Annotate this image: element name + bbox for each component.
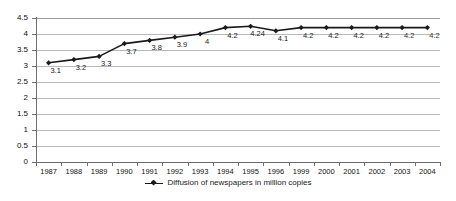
x-tick xyxy=(263,162,264,166)
y-tick xyxy=(32,82,36,83)
x-tick xyxy=(415,162,416,166)
y-tick xyxy=(32,114,36,115)
y-tick-label: 0 xyxy=(0,158,28,166)
x-tick xyxy=(112,162,113,166)
x-tick xyxy=(364,162,365,166)
x-tick-label: 2000 xyxy=(318,167,335,176)
x-tick xyxy=(137,162,138,166)
x-tick xyxy=(87,162,88,166)
data-point-label: 4 xyxy=(205,37,209,46)
data-point-label: 4.2 xyxy=(328,31,338,40)
data-point-label: 3.2 xyxy=(76,63,86,72)
x-tick-label: 1987 xyxy=(40,167,57,176)
x-tick-label: 1994 xyxy=(217,167,234,176)
y-tick xyxy=(32,50,36,51)
legend: Diffusion of newspapers in million copie… xyxy=(0,178,456,188)
x-tick xyxy=(188,162,189,166)
x-tick xyxy=(162,162,163,166)
x-tick-label: 1992 xyxy=(167,167,184,176)
y-axis-line xyxy=(36,17,37,163)
x-tick-label: 1995 xyxy=(242,167,259,176)
x-tick-label: 2003 xyxy=(394,167,411,176)
data-point-label: 3.1 xyxy=(50,66,60,75)
y-tick-label: 4.5 xyxy=(0,14,28,22)
y-tick-label: 1 xyxy=(0,126,28,134)
data-point-label: 4.1 xyxy=(278,34,288,43)
gridline xyxy=(36,18,440,19)
gridline xyxy=(36,82,440,83)
x-tick xyxy=(238,162,239,166)
x-tick-label: 1996 xyxy=(268,167,285,176)
x-tick-label: 2004 xyxy=(419,167,436,176)
data-point-label: 4.2 xyxy=(404,31,414,40)
data-point-label: 4.2 xyxy=(379,31,389,40)
line-diamond-marker-icon xyxy=(145,179,163,188)
plot-area xyxy=(36,18,440,162)
data-point-label: 4.2 xyxy=(353,31,363,40)
x-tick-label: 1991 xyxy=(141,167,158,176)
x-tick xyxy=(289,162,290,166)
gridline xyxy=(36,130,440,131)
data-point-label: 4.2 xyxy=(429,31,439,40)
y-tick-label: 2.5 xyxy=(0,78,28,86)
data-point-label: 3.3 xyxy=(101,59,111,68)
y-tick xyxy=(32,66,36,67)
x-tick xyxy=(339,162,340,166)
x-tick-label: 1990 xyxy=(116,167,133,176)
y-tick xyxy=(32,98,36,99)
x-tick-label: 1993 xyxy=(192,167,209,176)
x-tick xyxy=(213,162,214,166)
y-tick-label: 4 xyxy=(0,30,28,38)
x-tick-label: 1989 xyxy=(91,167,108,176)
data-point-label: 4.24 xyxy=(250,29,265,38)
gridline xyxy=(36,114,440,115)
x-tick xyxy=(36,162,37,166)
gridline xyxy=(36,98,440,99)
y-tick-label: 2 xyxy=(0,94,28,102)
x-tick-label: 2001 xyxy=(343,167,360,176)
x-tick-label: 2002 xyxy=(369,167,386,176)
gridline xyxy=(36,66,440,67)
y-tick xyxy=(32,18,36,19)
y-tick xyxy=(32,130,36,131)
data-point-label: 3.7 xyxy=(126,47,136,56)
gridline xyxy=(36,146,440,147)
gridline xyxy=(36,50,440,51)
x-tick-label: 1999 xyxy=(293,167,310,176)
y-tick-label: 0.5 xyxy=(0,142,28,150)
data-point-label: 4.2 xyxy=(303,31,313,40)
x-tick-label: 1988 xyxy=(66,167,83,176)
line-chart: 00.511.522.533.544.5 1987198819891990199… xyxy=(0,0,456,201)
legend-label: Diffusion of newspapers in million copie… xyxy=(168,178,312,188)
y-tick-label: 1.5 xyxy=(0,110,28,118)
data-point-label: 3.8 xyxy=(151,43,161,52)
y-tick-label: 3 xyxy=(0,62,28,70)
y-tick xyxy=(32,34,36,35)
x-tick xyxy=(314,162,315,166)
y-tick xyxy=(32,146,36,147)
x-tick xyxy=(61,162,62,166)
x-tick xyxy=(440,162,441,166)
x-tick xyxy=(390,162,391,166)
data-point-label: 4.2 xyxy=(227,31,237,40)
y-tick-label: 3.5 xyxy=(0,46,28,54)
data-point-label: 3.9 xyxy=(177,40,187,49)
